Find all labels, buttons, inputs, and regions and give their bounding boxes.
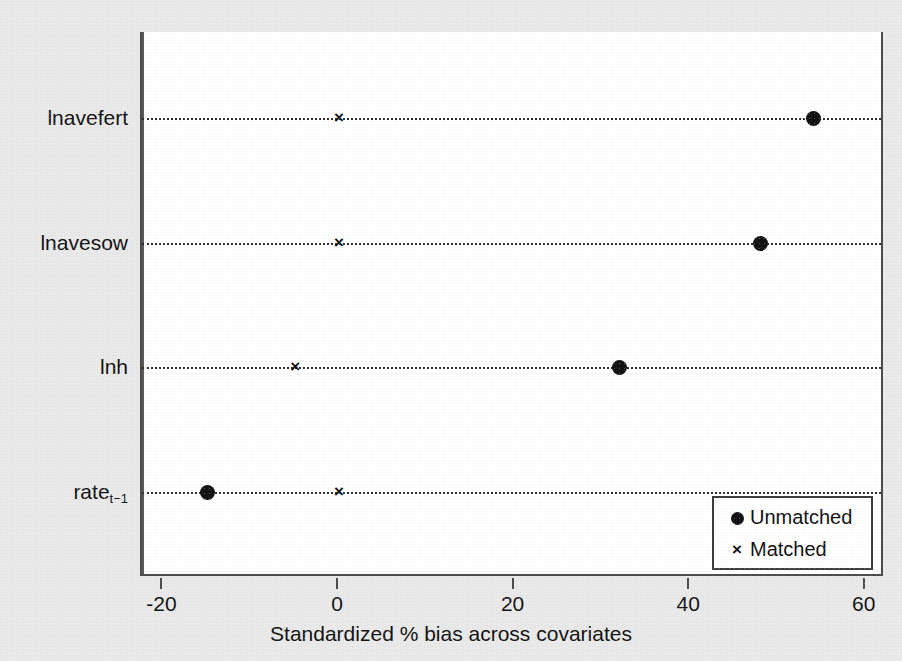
- gridline-lnh: [142, 367, 881, 369]
- y-axis-label-lnavesow: lnavesow: [40, 231, 128, 255]
- x-tick-20: [512, 578, 514, 589]
- x-tick-0: [336, 578, 338, 589]
- y-axis-label-subscript: t−1: [110, 491, 128, 506]
- x-tick-label--20: -20: [146, 592, 176, 616]
- datapoint-unmatched-lnh: [612, 360, 627, 375]
- y-axis-label-lnavefert: lnavefert: [47, 106, 128, 130]
- datapoint-matched-rate: ×: [331, 484, 347, 500]
- legend: Unmatched × Matched: [712, 496, 873, 570]
- datapoint-matched-lnavefert: ×: [331, 110, 347, 126]
- y-axis-label-lnh: lnh: [100, 355, 128, 379]
- cross-icon: ×: [724, 540, 750, 559]
- datapoint-unmatched-rate: [200, 485, 215, 500]
- x-tick-60: [863, 578, 865, 589]
- x-axis-title: Standardized % bias across covariates: [0, 622, 902, 646]
- legend-label-matched: Matched: [750, 538, 827, 561]
- legend-label-unmatched: Unmatched: [750, 506, 852, 529]
- filled-circle-icon: [724, 508, 750, 526]
- y-axis-label-text: rate: [73, 480, 109, 503]
- x-tick--20: [160, 578, 162, 589]
- x-tick-label-60: 60: [852, 592, 875, 616]
- datapoint-matched-lnh: ×: [287, 359, 303, 375]
- datapoint-unmatched-lnavesow: [753, 236, 768, 251]
- legend-item-unmatched: Unmatched: [724, 502, 852, 532]
- plot-area: ××××: [140, 32, 883, 576]
- y-axis-label-rate: ratet−1: [73, 480, 128, 504]
- y-axis-label-text: lnavesow: [40, 231, 128, 254]
- legend-item-matched: × Matched: [724, 534, 827, 564]
- x-tick-40: [687, 578, 689, 589]
- datapoint-matched-lnavesow: ×: [331, 235, 347, 251]
- datapoint-unmatched-lnavefert: [806, 111, 821, 126]
- y-axis-label-text: lnavefert: [47, 106, 128, 129]
- gridline-lnavesow: [142, 243, 881, 245]
- covariate-balance-dot-plot: ×××× Standardized % bias across covariat…: [0, 0, 902, 661]
- y-axis-label-text: lnh: [100, 355, 128, 378]
- x-tick-label-20: 20: [501, 592, 524, 616]
- x-tick-label-0: 0: [331, 592, 343, 616]
- gridline-rate: [142, 492, 881, 494]
- x-tick-label-40: 40: [677, 592, 700, 616]
- gridline-lnavefert: [142, 118, 881, 120]
